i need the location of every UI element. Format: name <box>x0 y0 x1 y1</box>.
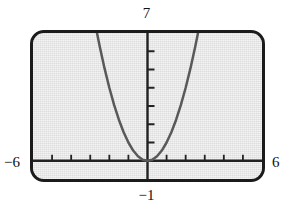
graph-figure: 7 −6 6 −1 <box>0 0 293 212</box>
x-axis-max-label: 6 <box>272 155 280 170</box>
x-axis-min-label: −6 <box>4 155 20 170</box>
calculator-screen-frame <box>30 30 265 182</box>
y-axis-max-label: 7 <box>0 6 293 21</box>
plot-area <box>33 33 262 179</box>
y-axis-min-label: −1 <box>0 188 293 203</box>
